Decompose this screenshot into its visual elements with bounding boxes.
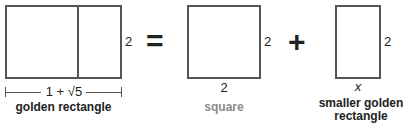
equals-sign: = [146, 26, 164, 56]
smaller-rectangle-caption-line2: rectangle [318, 110, 404, 123]
dimension-line-right [86, 92, 122, 93]
plus-sign: + [288, 27, 306, 57]
golden-rectangle [5, 5, 122, 79]
smaller-golden-rectangle [335, 5, 381, 79]
golden-rectangle-divider [77, 5, 79, 79]
square-width-label: 2 [187, 81, 261, 95]
square-height-label: 2 [264, 35, 271, 49]
dimension-tick-right [121, 87, 122, 97]
square-caption: square [187, 101, 261, 114]
golden-rectangle-caption: golden rectangle [5, 101, 122, 114]
smaller-rectangle-height-label: 2 [384, 35, 391, 49]
smaller-rectangle-width-label: x [335, 80, 381, 94]
square [187, 5, 261, 79]
golden-rectangle-width-label: 1 + √5 [44, 85, 84, 99]
dimension-line-left [5, 92, 41, 93]
golden-rectangle-height-label: 2 [125, 35, 132, 49]
